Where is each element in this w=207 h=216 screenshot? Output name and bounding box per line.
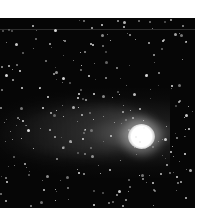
star (153, 205, 154, 206)
star (68, 199, 69, 200)
star (93, 204, 95, 206)
star (138, 20, 140, 22)
star (123, 21, 126, 24)
star (40, 201, 43, 204)
star (116, 67, 118, 69)
star (79, 20, 80, 21)
star (95, 79, 96, 80)
star (5, 74, 8, 77)
star (29, 171, 30, 172)
star (171, 88, 172, 89)
star (177, 182, 179, 184)
star (146, 182, 147, 183)
star (174, 33, 177, 36)
star (125, 199, 127, 201)
star (173, 156, 174, 157)
star (105, 61, 108, 64)
star (129, 186, 131, 188)
star (80, 52, 81, 53)
star (101, 24, 103, 26)
star (186, 169, 187, 170)
star (122, 205, 124, 207)
star (158, 85, 159, 86)
star (91, 27, 93, 29)
star (2, 30, 4, 32)
star (182, 59, 183, 60)
star (149, 21, 151, 23)
star (169, 172, 171, 174)
star (8, 65, 10, 67)
star (77, 152, 79, 154)
star (105, 51, 107, 53)
star (179, 161, 180, 162)
star (158, 72, 160, 74)
star (125, 119, 127, 121)
star (55, 200, 56, 201)
star (128, 179, 130, 181)
star (32, 25, 34, 27)
star (72, 106, 75, 109)
star (184, 117, 185, 118)
star (62, 77, 65, 80)
star (119, 94, 120, 95)
star (49, 43, 51, 45)
star (189, 169, 192, 172)
star (103, 141, 104, 142)
star (63, 55, 64, 56)
star (61, 137, 62, 138)
star (164, 138, 167, 141)
star (107, 34, 108, 35)
star (28, 174, 30, 176)
star (92, 44, 94, 46)
star (150, 98, 151, 99)
star (45, 60, 47, 62)
star (134, 147, 135, 148)
star (110, 40, 111, 41)
star (170, 19, 172, 21)
star (173, 172, 174, 173)
star (165, 158, 166, 159)
star (55, 189, 56, 190)
star (148, 42, 150, 44)
star (185, 114, 188, 117)
star (77, 97, 79, 99)
star (152, 28, 153, 29)
star (184, 153, 186, 155)
star (129, 34, 131, 36)
star (33, 48, 34, 49)
star (128, 191, 129, 192)
star (144, 147, 146, 149)
star (93, 93, 95, 95)
star (108, 202, 110, 204)
star (1, 66, 3, 68)
star (180, 181, 182, 183)
comet-nucleus (128, 124, 155, 149)
star (112, 201, 114, 203)
star (172, 146, 173, 147)
star (53, 114, 56, 117)
star (110, 135, 112, 137)
star (175, 133, 176, 134)
star (147, 74, 148, 75)
star (12, 79, 14, 81)
star (54, 29, 57, 32)
star (175, 105, 177, 107)
star (126, 85, 127, 86)
star (178, 84, 181, 87)
star (42, 180, 43, 181)
star (55, 71, 58, 74)
star (179, 33, 180, 34)
star (166, 164, 168, 166)
star (152, 182, 154, 184)
star (30, 205, 32, 207)
star (56, 191, 57, 192)
star (81, 114, 83, 116)
star (176, 176, 178, 178)
star (80, 69, 82, 71)
star (163, 39, 165, 41)
star (180, 34, 183, 37)
star (130, 141, 131, 142)
star (1, 89, 3, 91)
star (6, 181, 8, 183)
star (130, 110, 131, 111)
